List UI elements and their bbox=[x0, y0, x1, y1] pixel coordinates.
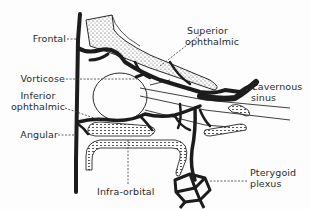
sphenoid-bone-fragments bbox=[204, 104, 249, 136]
label-infra-orbital: Infra-orbital bbox=[97, 186, 154, 197]
label-inferior-ophthalmic: Inferior ophthalmic bbox=[8, 90, 68, 112]
label-pterygoid-plexus-line1: Pterygoid bbox=[250, 167, 296, 178]
label-superior-ophthalmic-line2: ophthalmic bbox=[185, 36, 239, 47]
label-inferior-ophthalmic-line2: ophthalmic bbox=[8, 101, 68, 112]
label-cavernous-sinus-line1: Cavernous bbox=[251, 81, 302, 92]
label-pterygoid-plexus: Pterygoid plexus bbox=[250, 167, 296, 189]
label-angular: Angular bbox=[8, 129, 58, 140]
orbital-veins-diagram: Frontal Superior ophthalmic Vorticose In… bbox=[0, 0, 311, 209]
label-superior-ophthalmic: Superior ophthalmic bbox=[185, 25, 239, 47]
orbital-floor-bone bbox=[86, 122, 187, 176]
label-frontal: Frontal bbox=[14, 33, 66, 44]
label-cavernous-sinus-line2: sinus bbox=[251, 92, 302, 103]
label-superior-ophthalmic-line1: Superior bbox=[185, 25, 239, 36]
label-cavernous-sinus: Cavernous sinus bbox=[251, 81, 302, 103]
label-pterygoid-plexus-line2: plexus bbox=[250, 178, 296, 189]
pterygoid-plexus bbox=[175, 174, 210, 208]
eyeball-outline bbox=[93, 73, 147, 121]
label-inferior-ophthalmic-line1: Inferior bbox=[8, 90, 68, 101]
label-vorticose: Vorticose bbox=[8, 73, 65, 84]
